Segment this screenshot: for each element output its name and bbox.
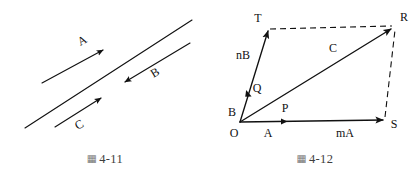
figure-4-11-caption: ▦4-11 [0,152,210,167]
caption-glyph-icon: ▦ [297,152,307,164]
vertex-o-label: O [230,126,239,140]
figure-4-12-caption: ▦4-12 [210,152,420,167]
vector-a-unit-label: A [264,126,273,140]
edge-o-to-t-vector-nb [240,31,268,122]
vector-a-label: A [75,32,90,49]
caption-glyph-icon: ▦ [87,152,97,164]
figure-4-12-canvas: O T R S Q P B A nB mA C [210,0,420,177]
vector-a-arrow [42,50,103,83]
edge-o-to-s-vector-ma [240,120,383,122]
vector-b-label: B [148,65,162,81]
figures-container: A B C ▦4-11 [0,0,420,177]
vertex-r-label: R [400,10,408,24]
baseline-guide-line [25,20,192,128]
edge-s-to-r-dashed [385,30,395,117]
vector-nb-label: nB [236,48,250,62]
edge-t-to-r-dashed [270,26,392,29]
figure-4-12-panel: O T R S Q P B A nB mA C ▦4-12 [210,0,420,177]
caption-number: 4-12 [309,152,334,167]
caption-number: 4-11 [99,152,123,167]
point-p-label: P [282,101,289,115]
figure-4-11-panel: A B C ▦4-11 [0,0,210,177]
marker-q-arrowhead [245,90,251,97]
marker-p-arrowhead [281,118,287,124]
vertex-s-label: S [391,117,398,131]
vector-b-unit-label: B [228,105,236,119]
vector-ma-label: mA [336,126,354,140]
figure-4-11-canvas: A B C [0,0,210,177]
point-q-label: Q [253,81,262,95]
vector-c-label: C [329,41,337,55]
edge-o-to-r-vector-c [240,29,391,122]
vertex-t-label: T [254,11,262,25]
vector-c-label: C [72,116,86,132]
